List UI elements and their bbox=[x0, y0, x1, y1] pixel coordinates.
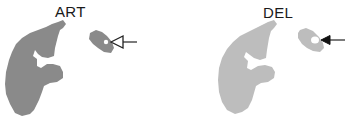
art-main-tissue bbox=[5, 20, 66, 116]
del-main-tissue bbox=[218, 20, 277, 114]
panel-art: ART bbox=[0, 0, 172, 122]
art-spot bbox=[104, 40, 108, 44]
del-figure bbox=[172, 0, 345, 122]
art-small-tissue bbox=[89, 30, 114, 53]
arrow-icon bbox=[111, 36, 137, 48]
arrow-icon bbox=[321, 36, 345, 45]
art-figure bbox=[0, 0, 172, 122]
panel-del: DEL bbox=[172, 0, 345, 122]
del-spot bbox=[311, 37, 319, 44]
